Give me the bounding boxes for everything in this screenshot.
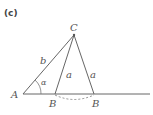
label-side-a-right: a [90, 69, 96, 80]
label-b2: B [91, 98, 99, 109]
vertex-c-dot [73, 34, 75, 36]
label-b1: B [48, 98, 56, 109]
triangle-diagram: (c) C A B B b a a α [0, 0, 153, 115]
label-c: C [70, 22, 78, 33]
label-side-b: b [40, 55, 46, 66]
label-side-a-left: a [66, 69, 72, 80]
side-a-right [74, 35, 94, 94]
label-a-point: A [10, 89, 18, 100]
side-a-left [55, 35, 74, 94]
dashed-arc [55, 95, 94, 100]
side-b [23, 35, 74, 94]
label-angle-alpha: α [41, 78, 47, 87]
panel-label: (c) [4, 8, 18, 18]
